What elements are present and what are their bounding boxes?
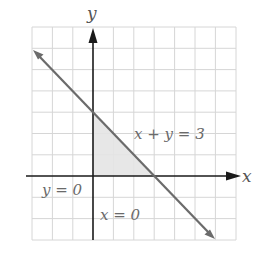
x-axis-arrow-icon: [226, 172, 241, 181]
line-equation-text: x + y = 3: [134, 125, 205, 143]
coordinate-graph: y x x + y = 3 y = 0 x = 0: [0, 0, 255, 255]
y-axis-label: y: [86, 3, 97, 23]
y-axis-arrow-icon: [89, 28, 98, 43]
line-equation-label: x + y = 3: [134, 125, 205, 143]
x-equals-0-label: x = 0: [100, 206, 141, 224]
y-equals-0-label: y = 0: [41, 181, 83, 199]
x-axis-label: x: [242, 166, 252, 186]
